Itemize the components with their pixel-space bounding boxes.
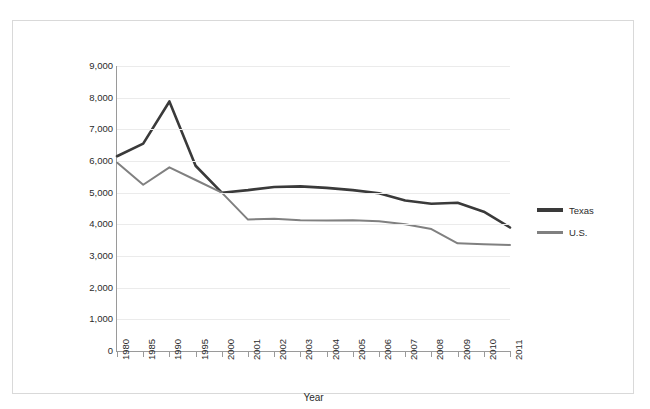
gridline xyxy=(117,193,510,194)
x-axis-tick-label: 1985 xyxy=(147,339,157,360)
x-axis-tick-label: 2010 xyxy=(488,339,498,360)
gridline xyxy=(117,288,510,289)
legend-line-swatch xyxy=(537,231,563,234)
y-axis-tick-label: 4,000 xyxy=(61,219,113,229)
x-axis-tick-label: 2002 xyxy=(278,339,288,360)
y-axis-tick-label: 0 xyxy=(61,346,113,356)
gridline xyxy=(117,319,510,320)
chart-frame: 9,0008,0007,0006,0005,0004,0003,0002,000… xyxy=(12,20,634,394)
x-axis-tick-label: 2009 xyxy=(462,339,472,360)
legend-item-u-s[interactable]: U.S. xyxy=(537,221,637,243)
line-series-texas xyxy=(117,101,510,227)
x-axis-tick-label: 2008 xyxy=(435,339,445,360)
x-axis-tick-label: 2007 xyxy=(409,339,419,360)
x-axis-tick xyxy=(248,352,249,357)
legend-item-texas[interactable]: Texas xyxy=(537,199,637,221)
x-axis-tick xyxy=(405,352,406,357)
line-series-group xyxy=(117,66,510,351)
y-axis-tick-label: 2,000 xyxy=(61,283,113,293)
x-axis-tick-label: 2006 xyxy=(383,339,393,360)
y-axis-tick-label: 6,000 xyxy=(61,156,113,166)
x-axis-tick xyxy=(484,352,485,357)
x-axis-tick xyxy=(169,352,170,357)
x-axis-tick xyxy=(431,352,432,357)
gridline xyxy=(117,129,510,130)
x-axis-tick xyxy=(196,352,197,357)
y-axis-tick-labels: 9,0008,0007,0006,0005,0004,0003,0002,000… xyxy=(57,21,113,409)
gridline xyxy=(117,98,510,99)
x-axis-tick xyxy=(327,352,328,357)
y-axis-tick-label: 3,000 xyxy=(61,251,113,261)
x-axis-tick-label: 1980 xyxy=(121,339,131,360)
x-axis-tick-label: 2004 xyxy=(331,339,341,360)
x-axis-tick-label: 2003 xyxy=(304,339,314,360)
x-axis-tick xyxy=(458,352,459,357)
y-axis-tick-label: 1,000 xyxy=(61,314,113,324)
y-axis-tick-label: 7,000 xyxy=(61,124,113,134)
x-axis-tick-label: 1995 xyxy=(200,339,210,360)
legend-label: Texas xyxy=(569,205,594,216)
x-axis-tick xyxy=(117,352,118,357)
y-axis-tick-label: 9,000 xyxy=(61,61,113,71)
x-axis-tick xyxy=(510,352,511,357)
y-axis-tick-label: 8,000 xyxy=(61,93,113,103)
plot-area xyxy=(117,66,510,351)
gridline xyxy=(117,256,510,257)
chart-page: 9,0008,0007,0006,0005,0004,0003,0002,000… xyxy=(0,0,650,409)
chart-legend: TexasU.S. xyxy=(537,199,637,243)
gridline xyxy=(117,66,510,67)
x-axis-tick xyxy=(274,352,275,357)
x-axis-tick xyxy=(379,352,380,357)
x-axis-tick xyxy=(300,352,301,357)
legend-label: U.S. xyxy=(569,227,587,238)
x-axis-tick-label: 2005 xyxy=(357,339,367,360)
x-axis-tick-label: 2011 xyxy=(514,340,524,360)
legend-line-swatch xyxy=(537,208,563,212)
x-axis-tick-label: 2001 xyxy=(252,339,262,360)
x-axis-tick xyxy=(353,352,354,357)
x-axis-tick xyxy=(143,352,144,357)
x-axis-tick xyxy=(222,352,223,357)
x-axis-tick-label: 2000 xyxy=(226,339,236,360)
x-axis-tick-label: 1990 xyxy=(173,339,183,360)
gridline xyxy=(117,224,510,225)
y-axis-tick-label: 5,000 xyxy=(61,188,113,198)
x-axis-title: Year xyxy=(117,392,510,403)
gridline xyxy=(117,161,510,162)
